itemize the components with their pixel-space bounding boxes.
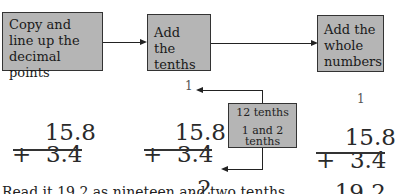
arrow-step2-to-step3 xyxy=(211,43,315,44)
arrowhead-icon xyxy=(221,166,228,172)
arrowhead-icon xyxy=(140,39,147,45)
step-label-copy: Copy and line up the decimal points xyxy=(9,17,80,80)
arrowhead-icon xyxy=(196,87,203,93)
col2-sum-rule xyxy=(144,149,212,151)
col1-bottom: +3.4 xyxy=(12,118,82,166)
step-box-copy: Copy and line up the decimal points xyxy=(2,12,103,71)
step-label-whole: Add the whole numbers xyxy=(324,22,382,69)
step-box-whole: Add the whole numbers xyxy=(317,15,384,72)
col2-carry: 1 xyxy=(185,79,193,93)
footer-note: Read it 19.2 as nineteen and two tenths xyxy=(2,184,285,194)
col3-result: 19.2 xyxy=(320,156,384,194)
regroup-line3: tenths xyxy=(229,136,296,147)
carry-arrow-vertical xyxy=(262,90,263,103)
carry-arrow-horizontal xyxy=(200,90,263,91)
step-label-tenths: Add the tenths xyxy=(154,25,196,72)
col1-sum-rule xyxy=(13,149,82,151)
regroup-note-box: 12 tenths 1 and 2 tenths xyxy=(228,103,297,148)
result-arrow-vertical xyxy=(262,148,263,169)
regroup-line1: 12 tenths xyxy=(229,107,296,118)
step-box-tenths: Add the tenths xyxy=(147,14,211,71)
arrow-step1-to-step2 xyxy=(103,42,140,43)
col3-sum-rule xyxy=(316,152,385,154)
result-arrow-horizontal xyxy=(226,169,263,170)
